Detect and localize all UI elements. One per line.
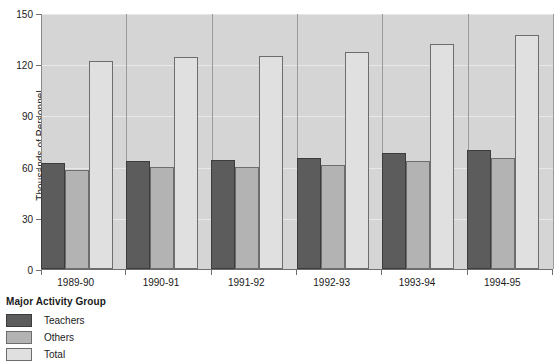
bar-teachers (126, 161, 150, 269)
y-axis-ticks: 0306090120150 (0, 0, 41, 336)
bar-others (235, 167, 259, 269)
bar-others (65, 170, 89, 269)
x-tick-label: 1994-95 (484, 277, 521, 288)
legend-swatch-teachers (6, 314, 32, 327)
x-tick-mark (211, 270, 212, 275)
bar-others (321, 165, 345, 269)
x-tick-label: 1993-94 (399, 277, 436, 288)
y-tick-label: 60 (22, 162, 33, 173)
bar-total (430, 44, 454, 269)
bar-teachers (41, 163, 65, 269)
legend-swatch-total (6, 348, 32, 361)
legend-label: Total (44, 349, 65, 360)
x-tick-mark (296, 270, 297, 275)
bar-group (297, 14, 369, 269)
x-tick-mark (552, 270, 553, 275)
y-tick-label: 0 (27, 265, 33, 276)
bar-total (515, 35, 539, 269)
bar-total (259, 56, 283, 269)
y-tick-label: 30 (22, 213, 33, 224)
plot-area (41, 14, 553, 270)
x-tick-mark (381, 270, 382, 275)
bar-total (89, 61, 113, 269)
y-tick-label: 120 (16, 60, 33, 71)
bar-teachers (467, 150, 491, 269)
bar-teachers (382, 153, 406, 269)
bar-teachers (297, 158, 321, 269)
x-tick-label: 1991-92 (228, 277, 265, 288)
legend-title: Major Activity Group (6, 296, 256, 307)
bar-group (211, 14, 283, 269)
bar-group (126, 14, 198, 269)
bar-others (406, 161, 430, 269)
legend-item: Total (6, 346, 256, 363)
x-tick-mark (41, 270, 42, 275)
legend-item: Teachers (6, 312, 256, 329)
legend-item: Others (6, 329, 256, 346)
x-tick-mark (125, 270, 126, 275)
legend-label: Teachers (44, 315, 85, 326)
bar-group (41, 14, 113, 269)
chart-legend: Major Activity Group TeachersOthersTotal (6, 296, 256, 363)
legend-swatch-others (6, 331, 32, 344)
bar-group (382, 14, 454, 269)
bar-others (150, 167, 174, 269)
bar-group (467, 14, 539, 269)
bar-teachers (211, 160, 235, 269)
y-tick-label: 90 (22, 111, 33, 122)
x-tick-label: 1989-90 (57, 277, 94, 288)
x-tick-label: 1992-93 (313, 277, 350, 288)
legend-label: Others (44, 332, 74, 343)
bar-total (174, 57, 198, 269)
bar-total (345, 52, 369, 269)
x-tick-label: 1990-91 (143, 277, 180, 288)
y-tick-label: 150 (16, 9, 33, 20)
x-tick-mark (467, 270, 468, 275)
bar-others (491, 158, 515, 269)
